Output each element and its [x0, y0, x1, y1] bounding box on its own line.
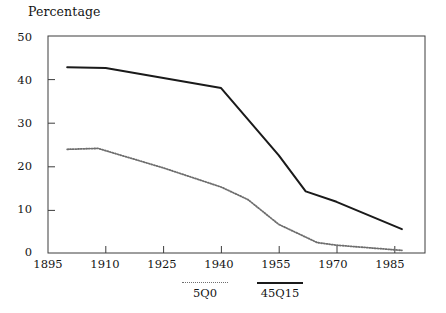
series-line-45q15: [67, 67, 402, 229]
legend-entry-45q15: 45Q15: [245, 279, 315, 300]
y-axis-ticks: [48, 80, 55, 211]
chart-container: Percentage 50 40 30 20 10 0 1895 1910 19…: [0, 0, 446, 313]
legend-entry-5q0: 5Q0: [170, 279, 240, 300]
series-line-5q0: [67, 148, 402, 250]
legend-swatch-dotted-icon: [182, 279, 228, 286]
plot-area: [0, 0, 446, 313]
legend-label-5q0: 5Q0: [170, 287, 240, 300]
legend-swatch-solid-icon: [257, 279, 303, 286]
legend-label-45q15: 45Q15: [245, 287, 315, 300]
